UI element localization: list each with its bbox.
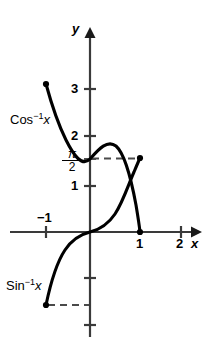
endpoint-arcsin-right bbox=[137, 155, 143, 161]
endpoint-arcsin-left bbox=[43, 302, 49, 308]
y-axis-arrowhead bbox=[85, 27, 96, 38]
y-tick-label-1: 1 bbox=[71, 179, 78, 192]
y-tick-label-pi-over-2: π 2 bbox=[62, 148, 82, 173]
pi-denominator: 2 bbox=[62, 161, 82, 173]
arcsin-label-prefix: Sin bbox=[6, 278, 25, 293]
arccos-label-prefix: Cos bbox=[10, 112, 33, 127]
arccos-label-exponent: −1 bbox=[33, 111, 43, 121]
x-tick-label-1: 1 bbox=[136, 237, 143, 250]
arcsin-curve-label: Sin−1x bbox=[6, 279, 42, 292]
pi-numerator: π bbox=[62, 148, 82, 160]
arcsin-label-exponent: −1 bbox=[25, 277, 35, 287]
y-tick-label-2: 2 bbox=[71, 129, 78, 142]
arccos-curve-label: Cos−1x bbox=[10, 113, 50, 126]
x-tick-label-neg1: −1 bbox=[37, 211, 52, 224]
y-axis-label: y bbox=[72, 22, 79, 35]
endpoint-arccos-left bbox=[43, 81, 49, 87]
plot-canvas bbox=[0, 0, 204, 347]
x-tick-label-2: 2 bbox=[176, 237, 183, 250]
arcsin-label-variable: x bbox=[35, 278, 42, 293]
arccos-label-variable: x bbox=[43, 112, 50, 127]
x-axis-label: x bbox=[191, 237, 198, 250]
endpoint-arccos-right bbox=[137, 229, 143, 235]
inverse-trig-graph-figure: y x 3 2 1 π 2 −1 1 2 Cos−1x Sin−1x bbox=[0, 0, 204, 347]
y-tick-label-3: 3 bbox=[71, 82, 78, 95]
